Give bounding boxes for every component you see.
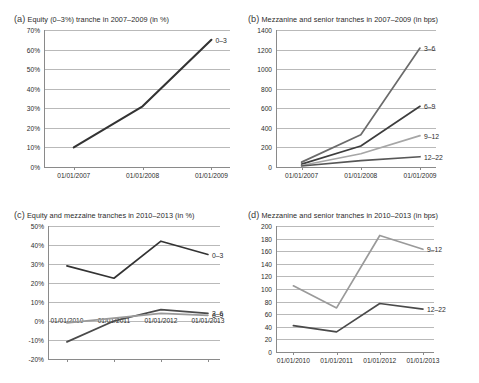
x-axis-tick-mark <box>161 359 162 362</box>
panel-d: (d) Mezzanine and senior tranches in 201… <box>248 210 479 383</box>
panel-b-label: (b) <box>248 14 259 24</box>
series-label: 6–9 <box>212 312 223 319</box>
series-label: 0–3 <box>212 251 223 258</box>
x-axis-tick-label: 01/01/2009 <box>195 172 228 179</box>
panel-a-title-text: Equity (0–3%) tranche in 2007–2009 (in %… <box>27 15 169 24</box>
y-axis-tick-label: 800 <box>261 85 272 92</box>
x-axis-tick-mark <box>380 352 381 355</box>
panel-c: (c) Equity and mezzaine tranches in 2010… <box>14 210 240 383</box>
x-axis-tick-mark <box>208 359 209 362</box>
panel-a-label: (a) <box>14 14 25 24</box>
x-axis-tick-mark <box>337 352 338 355</box>
x-axis-line <box>276 167 436 168</box>
panel-b: (b) Mezzanine and senior tranches in 200… <box>248 14 479 196</box>
y-axis-tick-label: 20 <box>265 336 272 343</box>
panel-c-title: (c) Equity and mezzaine tranches in 2010… <box>14 210 240 221</box>
y-axis-tick-label: 1400 <box>257 27 272 34</box>
y-axis-tick-label: 600 <box>261 105 272 112</box>
series-line <box>74 40 212 148</box>
y-axis-tick-label: 70% <box>27 27 40 34</box>
y-axis-tick-label: 80 <box>265 298 272 305</box>
panel-c-label: (c) <box>14 210 25 220</box>
series-layer <box>276 226 434 352</box>
series-label: 9–12 <box>427 246 442 253</box>
y-axis-tick-label: 120 <box>261 273 272 280</box>
panel-d-label: (d) <box>248 210 259 220</box>
y-axis-tick-label: 40% <box>27 85 40 92</box>
y-axis-tick-label: 20% <box>31 280 44 287</box>
y-axis-tick-label: 10% <box>27 144 40 151</box>
panel-a-plot: 0%10%20%30%40%50%60%70%01/01/200701/01/2… <box>44 30 230 167</box>
series-label: 12–22 <box>427 306 446 313</box>
panel-a-title: (a) Equity (0–3%) tranche in 2007–2009 (… <box>14 14 240 25</box>
series-label: 0–3 <box>215 36 226 43</box>
y-axis-tick-label: 50% <box>27 66 40 73</box>
y-axis-tick-label: 180 <box>261 235 272 242</box>
y-axis-tick-label: 30% <box>31 261 44 268</box>
y-axis-tick-label: 40% <box>31 242 44 249</box>
series-line <box>67 241 208 278</box>
panel-c-plot: -20%-10%0%10%20%30%40%50%01/01/201001/01… <box>48 226 220 359</box>
y-axis-tick-label: 1000 <box>257 66 272 73</box>
x-axis-tick-mark <box>114 359 115 362</box>
x-axis-tick-label: 01/01/2008 <box>126 172 159 179</box>
x-axis-tick-mark <box>420 167 421 170</box>
y-axis-tick-label: 400 <box>261 124 272 131</box>
panel-d-title: (d) Mezzanine and senior tranches in 201… <box>248 210 479 221</box>
x-axis-tick-mark <box>302 167 303 170</box>
x-axis-line <box>276 352 434 353</box>
panel-a: (a) Equity (0–3%) tranche in 2007–2009 (… <box>14 14 240 196</box>
x-axis-tick-label: 01/01/2007 <box>285 172 318 179</box>
x-axis-tick-mark <box>293 352 294 355</box>
x-axis-tick-label: 01/01/2010 <box>277 357 310 364</box>
panel-d-plot: 02040608010012014016018020001/01/201001/… <box>276 226 434 352</box>
series-label: 12–22 <box>424 153 443 160</box>
y-axis-tick-label: 0 <box>268 349 272 356</box>
series-label: 6–9 <box>424 103 435 110</box>
series-layer <box>276 30 436 167</box>
y-axis-tick-label: 1200 <box>257 46 272 53</box>
x-axis-tick-label: 01/01/2007 <box>57 172 90 179</box>
panel-c-title-text: Equity and mezzaine tranches in 2010–201… <box>27 211 195 220</box>
x-axis-tick-label: 01/01/2011 <box>320 357 353 364</box>
panel-b-title-text: Mezzanine and senior tranches in 2007–20… <box>261 15 438 24</box>
x-axis-tick-label: 01/01/2013 <box>406 357 439 364</box>
x-axis-line <box>48 359 220 360</box>
x-axis-tick-label: 01/01/2012 <box>363 357 396 364</box>
series-label: 9–12 <box>424 132 439 139</box>
y-axis-tick-label: 30% <box>27 105 40 112</box>
x-axis-tick-mark <box>361 167 362 170</box>
y-axis-tick-label: 20% <box>27 124 40 131</box>
x-axis-tick-mark <box>74 167 75 170</box>
y-axis-tick-label: 40 <box>265 323 272 330</box>
x-axis-tick-mark <box>211 167 212 170</box>
x-axis-tick-label: 01/01/2009 <box>403 172 436 179</box>
y-axis-tick-label: 0% <box>34 318 44 325</box>
y-axis-tick-label: 100 <box>261 286 272 293</box>
series-layer <box>48 226 220 359</box>
y-axis-tick-label: 200 <box>261 223 272 230</box>
panel-b-plot: 020040060080010001200140001/01/200701/01… <box>276 30 436 167</box>
series-label: 3–6 <box>424 45 435 52</box>
figure-container: (a) Equity (0–3%) tranche in 2007–2009 (… <box>0 0 479 383</box>
y-axis-tick-label: 60 <box>265 311 272 318</box>
x-axis-tick-mark <box>67 359 68 362</box>
series-layer <box>44 30 230 167</box>
y-axis-tick-label: 160 <box>261 248 272 255</box>
x-axis-tick-mark <box>423 352 424 355</box>
y-axis-tick-label: 60% <box>27 46 40 53</box>
series-line <box>293 303 423 331</box>
x-axis-line <box>44 167 230 168</box>
y-axis-tick-label: -10% <box>29 337 44 344</box>
y-axis-tick-label: 0% <box>30 164 40 171</box>
x-axis-tick-mark <box>143 167 144 170</box>
panel-b-title: (b) Mezzanine and senior tranches in 200… <box>248 14 479 25</box>
y-axis-tick-label: 200 <box>261 144 272 151</box>
series-line <box>293 235 423 307</box>
y-axis-tick-label: -20% <box>29 356 44 363</box>
x-axis-tick-label: 01/01/2008 <box>344 172 377 179</box>
panel-d-title-text: Mezzanine and senior tranches in 2010–20… <box>261 211 438 220</box>
y-axis-tick-label: 50% <box>31 223 44 230</box>
y-axis-tick-label: 140 <box>261 260 272 267</box>
y-axis-tick-label: 0 <box>268 164 272 171</box>
